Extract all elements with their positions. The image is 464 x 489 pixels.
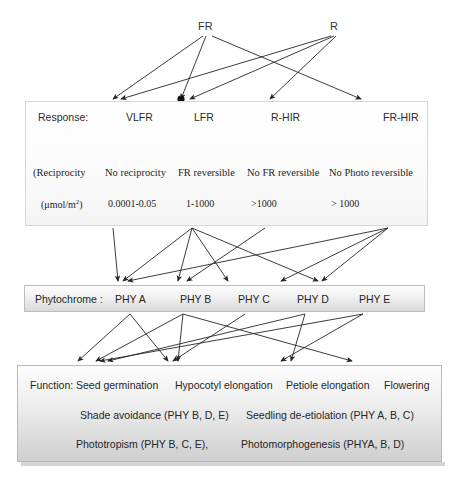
reciprocity-fr-rev: FR reversible xyxy=(178,167,235,178)
light-source-r: R xyxy=(330,20,338,32)
response-row-label: Response: xyxy=(38,111,88,123)
connector-light-to-response-3 xyxy=(121,36,331,99)
function-shade-avoidance: Shade avoidance (PHY B, D, E) xyxy=(80,409,229,421)
connector-phytochrome-to-function-9 xyxy=(100,314,363,361)
function-row-label: Function: xyxy=(30,379,73,391)
reciprocity-lfr: No reciprocity xyxy=(105,167,166,178)
connector-response-to-phytochrome-8 xyxy=(322,228,388,281)
function-seedling-de-etiolation: Seedling de-etiolation (PHY A, B, C) xyxy=(246,409,414,421)
connector-light-to-response-1 xyxy=(181,36,206,99)
fluence-lfr: 1-1000 xyxy=(186,198,214,209)
function-photomorphogenesis: Photomorphogenesis (PHYA, B, D) xyxy=(241,438,404,450)
reciprocity-no-photo-rev: No Photo reversible xyxy=(329,167,413,178)
fluence-units: (μmol/m2) xyxy=(41,198,83,210)
connector-light-to-response-4 xyxy=(190,36,334,99)
connector-phytochrome-to-function-0 xyxy=(78,314,130,361)
connector-phytochrome-to-function-4 xyxy=(183,314,352,361)
connector-light-to-response-5 xyxy=(270,36,336,99)
reciprocity-no-fr-rev: No FR reversible xyxy=(247,167,319,178)
function-petiole-elongation: Petiole elongation xyxy=(286,379,369,391)
connector-response-to-phytochrome-1 xyxy=(123,228,192,281)
phytochrome-phy-b: PHY B xyxy=(180,293,211,305)
connector-light-to-response-0 xyxy=(113,36,203,99)
connector-response-to-phytochrome-2 xyxy=(178,228,192,281)
function-flowering: Flowering xyxy=(384,379,430,391)
phytochrome-panel: Phytochrome : PHY A PHY B PHY C PHY D PH… xyxy=(24,285,425,312)
connector-light-to-response-2 xyxy=(212,36,361,99)
connector-response-to-phytochrome-5 xyxy=(187,228,265,281)
connector-phytochrome-to-function-3 xyxy=(178,314,183,361)
function-phototropism: Phototropism (PHY B, C, E), xyxy=(76,438,208,450)
response-vlfr: VLFR xyxy=(126,111,153,123)
panel-shadow xyxy=(21,462,445,466)
phytochrome-phy-c: PHY C xyxy=(238,293,270,305)
connector-phytochrome-to-function-2 xyxy=(96,314,183,361)
fluence-r-hir: >1000 xyxy=(251,198,277,209)
connector-response-to-phytochrome-6 xyxy=(128,228,388,281)
response-lfr: LFR xyxy=(194,111,214,123)
connector-phytochrome-to-function-6 xyxy=(108,314,305,361)
phytochrome-phy-d: PHY D xyxy=(297,293,329,305)
reciprocity-vlfr: (Reciprocity xyxy=(33,167,85,178)
response-fr-hir: FR-HIR xyxy=(383,111,419,123)
connector-phytochrome-to-function-8 xyxy=(281,314,363,361)
connector-response-to-phytochrome-3 xyxy=(192,228,228,281)
response-r-hir: R-HIR xyxy=(271,111,300,123)
fluence-fr-hir: > 1000 xyxy=(331,198,359,209)
light-source-fr: FR xyxy=(198,20,213,32)
connector-phytochrome-to-function-1 xyxy=(130,314,168,361)
response-panel: Response: VLFR LFR R-HIR FR-HIR (Recipro… xyxy=(25,101,428,226)
connector-phytochrome-to-function-5 xyxy=(173,314,245,361)
function-panel: Function: Seed germination Hypocotyl elo… xyxy=(17,365,442,462)
connector-phytochrome-to-function-7 xyxy=(291,314,305,361)
connector-response-to-phytochrome-7 xyxy=(281,228,388,281)
phytochrome-row-label: Phytochrome : xyxy=(35,293,103,305)
fluence-vlfr: 0.0001-0.05 xyxy=(108,198,156,209)
function-hypocotyl-elongation: Hypocotyl elongation xyxy=(175,379,272,391)
diagram-canvas: FR R Response: VLFR LFR R-HIR FR-HIR (Re… xyxy=(0,0,464,489)
connector-response-to-phytochrome-0 xyxy=(113,228,118,281)
function-seed-germination: Seed germination xyxy=(76,379,158,391)
connector-response-to-phytochrome-4 xyxy=(192,228,318,281)
phytochrome-phy-e: PHY E xyxy=(359,293,390,305)
phytochrome-phy-a: PHY A xyxy=(115,293,146,305)
